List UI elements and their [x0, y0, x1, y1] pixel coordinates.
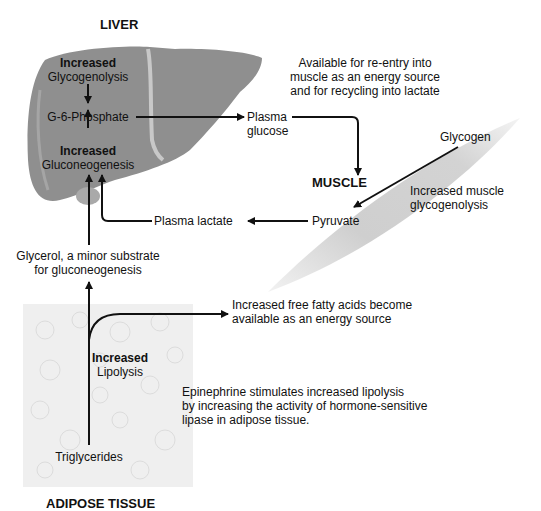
glycerol-label: Glycerol, a minor substrate for gluconeo…: [8, 249, 168, 277]
plasma-lactate-label: Plasma lactate: [154, 214, 233, 228]
triglycerides-label: Triglycerides: [48, 450, 130, 464]
available-note: Available for re-entry into muscle as an…: [270, 56, 460, 98]
liver-title: LIVER: [100, 18, 138, 32]
muscle-glycogenolysis-label: Increased muscle glycogenolysis: [410, 184, 504, 212]
increased-gluconeogenesis-bold: Increased: [48, 144, 128, 158]
lipolysis-label: Increased Lipolysis: [90, 351, 150, 379]
g6p-label: G-6-Phosphate: [38, 110, 138, 124]
muscle-title: MUSCLE: [312, 176, 367, 190]
pyruvate-label: Pyruvate: [312, 214, 359, 228]
increased-glycogenolysis-bold: Increased: [48, 56, 128, 70]
ffa-label: Increased free fatty acids become availa…: [232, 298, 412, 326]
gluconeogenesis-label: Gluconeogenesis: [33, 158, 143, 172]
glycogen-label: Glycogen: [440, 130, 491, 144]
adipose-title: ADIPOSE TISSUE: [46, 497, 155, 511]
plasma-glucose-label: Plasma glucose: [247, 110, 288, 138]
glycogenolysis-label: Glycogenolysis: [38, 70, 138, 84]
epinephrine-note: Epinephrine stimulates increased lipolys…: [182, 385, 427, 427]
